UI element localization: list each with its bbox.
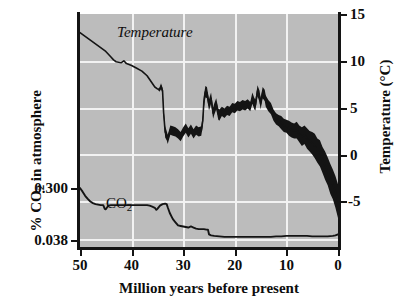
temperature-series-label: Temperature <box>117 24 193 41</box>
tick-mark-right <box>340 155 347 157</box>
axis-line-bottom <box>77 247 341 250</box>
tick-mark-bottom <box>286 249 288 256</box>
axis-line-left <box>77 12 80 250</box>
plot-area: Temperature CO2 <box>80 14 338 248</box>
tick-mark-bottom <box>235 249 237 256</box>
co2-series-label-subscript: 2 <box>127 201 132 213</box>
tick-label-bottom-5: 0 <box>334 258 342 273</box>
temperature-line <box>80 33 338 201</box>
tick-mark-right <box>340 108 347 110</box>
axis-line-right <box>338 12 341 250</box>
chart-figure: Temperature CO2 0.300 0.038 15 10 5 0 -5… <box>0 0 409 306</box>
tick-mark-right <box>340 201 347 203</box>
tick-label-right-0: 15 <box>350 7 365 22</box>
y-axis-label-left-subscript: 2 <box>34 185 46 190</box>
tick-label-bottom-3: 20 <box>227 258 242 273</box>
co2-series-label-text: CO <box>106 195 127 211</box>
tick-mark-right <box>340 61 347 63</box>
tick-label-right-2: 5 <box>350 101 358 116</box>
tick-mark-right <box>340 14 347 16</box>
tick-label-right-4: -5 <box>348 194 361 209</box>
tick-label-bottom-4: 10 <box>279 258 294 273</box>
tick-mark-bottom <box>132 249 134 256</box>
tick-mark-bottom <box>80 249 82 256</box>
y-axis-label-right: Temperature (°C) <box>377 22 394 212</box>
co2-series-label: CO2 <box>106 195 132 213</box>
y-axis-label-left-prefix: % CO <box>28 190 44 231</box>
tick-mark-left <box>71 240 78 242</box>
tick-label-bottom-0: 50 <box>73 258 88 273</box>
degree-celsius-text: °C) <box>377 60 393 82</box>
tick-label-right-3: 0 <box>350 148 358 163</box>
y-axis-label-left-suffix: in atmosphere <box>28 90 44 185</box>
x-axis-label: Million years before present <box>80 280 338 297</box>
tick-label-right-1: 10 <box>350 54 365 69</box>
series-layer <box>80 14 338 248</box>
tick-mark-bottom <box>338 249 340 256</box>
tick-mark-left <box>71 188 78 190</box>
temperature-band <box>80 33 338 218</box>
tick-mark-bottom <box>183 249 185 256</box>
y-axis-label-left: % CO2 in atmosphere <box>28 66 46 256</box>
tick-label-bottom-1: 40 <box>124 258 139 273</box>
y-axis-label-right-prefix: Temperature ( <box>377 81 393 173</box>
tick-label-bottom-2: 30 <box>176 258 191 273</box>
